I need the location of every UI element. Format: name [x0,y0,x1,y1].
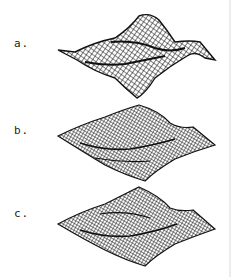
surface-plot-c [55,184,220,272]
panel-b-label: b. [14,124,29,137]
surface-plot-a [55,8,220,100]
page-edge [229,0,231,277]
panel-c-label: c. [14,207,29,220]
surface-plot-b [55,103,220,183]
panel-a-label: a. [14,37,29,50]
